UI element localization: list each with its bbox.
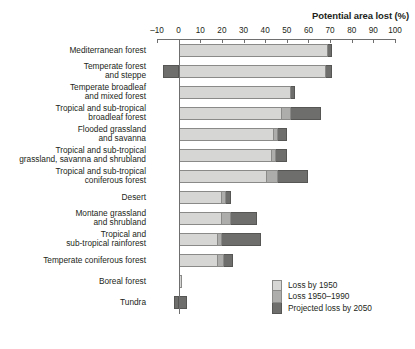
stacked-bar — [157, 44, 395, 57]
category-label-line: Desert — [122, 193, 146, 203]
bar-row — [157, 250, 395, 271]
bar-segment-series-1 — [179, 107, 283, 120]
x-tick-mark-60 — [308, 39, 309, 43]
bar-segment-series-3 — [278, 170, 308, 183]
bar-segment-series-3 — [226, 191, 230, 204]
stacked-bar — [157, 65, 395, 78]
bar-segment-series-3 — [278, 128, 287, 141]
x-tick-label-0: 0 — [176, 26, 181, 35]
legend-swatch-2 — [272, 291, 282, 302]
bar-segment-series-2 — [282, 107, 291, 120]
stacked-bar — [157, 191, 395, 204]
category-label: Mediterranean forest — [0, 40, 151, 61]
bar-segment-series-3 — [328, 44, 332, 57]
x-tick-label-90: 90 — [369, 26, 378, 35]
category-label: Tropical and sub-tropicalbroadleaf fores… — [0, 103, 151, 124]
legend-item: Loss 1950–1990 — [272, 291, 372, 302]
x-tick-label-40: 40 — [261, 26, 270, 35]
bar-row — [157, 229, 395, 250]
bar-segment-series-1 — [179, 44, 328, 57]
bar-segment-series-3 — [224, 254, 233, 267]
x-tick-label-60: 60 — [304, 26, 313, 35]
stacked-bar — [157, 107, 395, 120]
bar-segment-series-3 — [291, 107, 321, 120]
category-label-line: broadleaf forest — [55, 114, 146, 124]
x-tick-mark-40 — [265, 39, 266, 43]
zero-axis-line — [179, 39, 180, 314]
bar-segment-series-1 — [179, 149, 272, 162]
bar-row — [157, 124, 395, 145]
x-tick-label-20: 20 — [217, 26, 226, 35]
category-label-line: and shrubland — [75, 219, 146, 229]
bar-segment-series-1 — [179, 254, 218, 267]
category-label-line: Boreal forest — [99, 277, 146, 287]
legend-label: Loss by 1950 — [288, 280, 337, 291]
category-label: Temperate coniferous forest — [0, 250, 151, 271]
bar-row — [157, 145, 395, 166]
legend-item: Loss by 1950 — [272, 280, 372, 291]
legend-swatch-3 — [272, 303, 282, 314]
category-label: Temperate broadleafand mixed forest — [0, 82, 151, 103]
x-tick-label-100: 100 — [388, 26, 402, 35]
category-label: Tropical and sub-tropicalgrassland, sava… — [0, 145, 151, 166]
category-label-line: grassland, savanna and shrubland — [19, 156, 146, 166]
x-axis-title: Potential area lost (%) — [0, 10, 409, 21]
x-tick-mark-30 — [244, 39, 245, 43]
bar-row — [157, 103, 395, 124]
bar-row — [157, 82, 395, 103]
bar-segment-series-3 — [222, 233, 261, 246]
category-label: Flooded grasslandand savanna — [0, 124, 151, 145]
bar-segment-series-2 — [267, 170, 278, 183]
x-tick-mark-100 — [395, 39, 396, 43]
stacked-bar — [157, 212, 395, 225]
bar-segment-series-1 — [179, 212, 222, 225]
legend-label: Loss 1950–1990 — [288, 291, 349, 302]
bar-segment-series-1 — [179, 86, 292, 99]
x-tick-label-50: 50 — [282, 26, 291, 35]
bar-segment-series-3 — [179, 296, 188, 309]
chart-legend: Loss by 1950Loss 1950–1990Projected loss… — [272, 280, 372, 314]
category-label-line: Tundra — [120, 298, 146, 308]
x-axis-ticks — [157, 26, 395, 38]
category-label: Montane grasslandand shrubland — [0, 208, 151, 229]
bar-row — [157, 208, 395, 229]
stacked-bar — [157, 86, 395, 99]
x-tick-label-70: 70 — [326, 26, 335, 35]
x-tick-mark-10 — [200, 39, 201, 43]
bar-chart: Potential area lost (%) Biome Mediterran… — [0, 0, 415, 349]
x-tick-label-30: 30 — [239, 26, 248, 35]
category-label-line: Mediterranean forest — [69, 46, 146, 56]
stacked-bar — [157, 128, 395, 141]
x-tick-mark-50 — [287, 39, 288, 43]
x-tick-mark-90 — [373, 39, 374, 43]
category-label-line: and mixed forest — [70, 93, 146, 103]
bar-segment-series-1 — [179, 128, 274, 141]
category-label-line: sub-tropical rainforest — [66, 240, 146, 250]
stacked-bar — [157, 149, 395, 162]
bar-segment-series-3 — [231, 212, 257, 225]
x-tick-mark-70 — [330, 39, 331, 43]
x-tick-label-80: 80 — [347, 26, 356, 35]
stacked-bar — [157, 170, 395, 183]
stacked-bar — [157, 233, 395, 246]
category-label-line: coniferous forest — [55, 177, 146, 187]
bar-segment-series-2 — [222, 212, 231, 225]
bar-segment-series-1 — [179, 233, 218, 246]
bar-row — [157, 61, 395, 82]
bar-segment-series-3 — [291, 86, 295, 99]
bar-segment-series-1 — [179, 170, 268, 183]
bar-rows — [157, 40, 395, 313]
category-label-line: and steppe — [84, 72, 146, 82]
bar-segment-series-3 — [326, 65, 332, 78]
bar-segment-series-1 — [179, 191, 222, 204]
category-label-line: Temperate coniferous forest — [43, 256, 146, 266]
bar-row — [157, 40, 395, 61]
category-label: Temperate forestand steppe — [0, 61, 151, 82]
x-tick-label--10: –10 — [150, 26, 164, 35]
legend-item: Projected loss by 2050 — [272, 303, 372, 314]
category-label-line: and savanna — [78, 135, 146, 145]
bar-segment-negative — [163, 65, 178, 78]
bar-row — [157, 166, 395, 187]
x-tick-mark-20 — [222, 39, 223, 43]
bar-segment-series-1 — [179, 65, 326, 78]
